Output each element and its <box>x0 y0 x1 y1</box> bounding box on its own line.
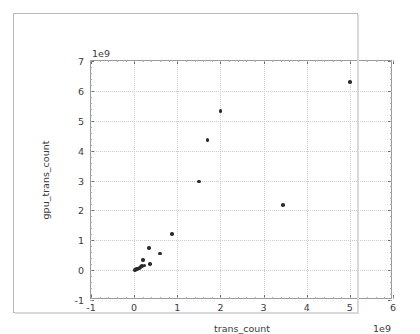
x-tick-minor <box>384 297 385 299</box>
scatter-point <box>141 258 145 262</box>
y-tick-minor <box>390 228 392 229</box>
x-axis-offset-text: 1e9 <box>373 323 391 334</box>
y-tick-minor <box>90 276 92 277</box>
x-tick-minor <box>151 297 152 299</box>
scatter-plot-axes: -10123456 -101234567 trans_count gpu_tra… <box>90 60 392 299</box>
y-tick-minor <box>90 294 92 295</box>
y-tick-minor <box>90 252 92 253</box>
x-tick-minor <box>307 60 308 62</box>
y-tick-minor <box>390 127 392 128</box>
y-tick-minor <box>390 186 392 187</box>
gridline-horizontal <box>91 181 391 182</box>
x-tick-minor <box>324 297 325 299</box>
x-tick-minor <box>220 297 221 299</box>
x-tick-label: 0 <box>131 302 137 313</box>
y-tick-minor <box>390 145 392 146</box>
gridline-horizontal <box>91 121 391 122</box>
y-tick-minor <box>390 169 392 170</box>
x-tick-minor <box>281 297 282 299</box>
x-tick-minor <box>367 60 368 62</box>
y-tick-minor <box>390 234 392 235</box>
x-tick-minor <box>264 297 265 299</box>
x-tick-minor <box>160 60 161 62</box>
y-tick-minor <box>90 67 92 68</box>
x-tick-minor <box>264 60 265 62</box>
x-tick-minor <box>195 297 196 299</box>
x-tick-minor <box>143 297 144 299</box>
x-tick-minor <box>272 60 273 62</box>
gridline-horizontal <box>91 240 391 241</box>
x-tick-minor <box>393 60 394 62</box>
y-tick-label: 3 <box>78 175 84 186</box>
y-tick-minor <box>90 97 92 98</box>
x-tick-minor <box>186 60 187 62</box>
x-tick-minor <box>393 297 394 299</box>
y-tick-minor <box>90 240 92 241</box>
gridline-vertical <box>220 61 221 298</box>
x-tick-minor <box>358 60 359 62</box>
y-tick-minor <box>390 282 392 283</box>
y-tick-label: 7 <box>78 56 84 67</box>
x-tick-minor <box>289 297 290 299</box>
y-tick-minor <box>390 79 392 80</box>
y-tick-minor <box>390 61 392 62</box>
y-tick-minor <box>90 109 92 110</box>
x-tick-minor <box>272 297 273 299</box>
y-tick-minor <box>390 139 392 140</box>
y-tick-minor <box>90 163 92 164</box>
x-tick-minor <box>350 60 351 62</box>
y-tick-minor <box>90 145 92 146</box>
x-tick-minor <box>143 60 144 62</box>
x-tick-minor <box>255 60 256 62</box>
x-tick-minor <box>367 297 368 299</box>
y-tick-minor <box>90 175 92 176</box>
x-tick-minor <box>177 60 178 62</box>
scatter-point <box>219 109 223 113</box>
x-tick-minor <box>134 60 135 62</box>
x-tick-minor <box>212 60 213 62</box>
y-tick-minor <box>390 240 392 241</box>
y-tick-minor <box>390 175 392 176</box>
y-tick-minor <box>390 270 392 271</box>
x-tick-minor <box>341 297 342 299</box>
y-tick-minor <box>90 210 92 211</box>
x-tick-label: 3 <box>261 302 267 313</box>
figure-canvas: -10123456 -101234567 trans_count gpu_tra… <box>13 13 358 313</box>
x-tick-minor <box>134 297 135 299</box>
y-tick-minor <box>90 246 92 247</box>
gridline-vertical <box>134 61 135 298</box>
gridline-horizontal <box>91 91 391 92</box>
y-tick-minor <box>90 186 92 187</box>
gridline-vertical <box>177 61 178 298</box>
scatter-point <box>348 80 352 84</box>
x-tick-minor <box>324 60 325 62</box>
x-tick-minor <box>238 297 239 299</box>
y-tick-label: 0 <box>78 265 84 276</box>
x-tick-label: -1 <box>86 302 95 313</box>
y-tick-minor <box>90 169 92 170</box>
scatter-point <box>158 252 162 256</box>
scatter-point <box>281 203 285 207</box>
y-tick-label: 6 <box>78 85 84 96</box>
scatter-point <box>170 232 174 236</box>
x-tick-minor <box>384 60 385 62</box>
y-tick-minor <box>90 264 92 265</box>
gridline-vertical <box>350 61 351 298</box>
y-tick-minor <box>90 85 92 86</box>
x-tick-minor <box>289 60 290 62</box>
y-tick-minor <box>390 97 392 98</box>
y-tick-minor <box>90 288 92 289</box>
scatter-point <box>147 246 151 250</box>
y-tick-minor <box>90 234 92 235</box>
y-tick-minor <box>390 252 392 253</box>
x-tick-minor <box>281 60 282 62</box>
y-tick-minor <box>390 294 392 295</box>
gridline-horizontal <box>91 210 391 211</box>
y-tick-label: 1 <box>78 235 84 246</box>
x-tick-minor <box>91 297 92 299</box>
y-tick-minor <box>390 276 392 277</box>
x-tick-minor <box>229 60 230 62</box>
y-tick-minor <box>90 121 92 122</box>
x-tick-minor <box>203 60 204 62</box>
x-tick-minor <box>246 60 247 62</box>
